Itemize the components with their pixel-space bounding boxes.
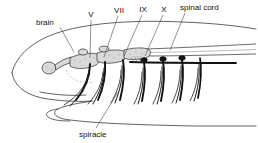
label-nerve-ix: IX xyxy=(139,5,147,14)
label-nerve-x: X xyxy=(161,5,167,14)
dorsal-lobe-anterior xyxy=(79,49,88,55)
posterior-medulla xyxy=(124,48,150,60)
cranial-nerve-diagram: brain V VII IX X spinal cord spiracle xyxy=(0,0,258,143)
label-nerve-vii: VII xyxy=(114,6,124,15)
olfactory-bulb xyxy=(42,62,56,74)
label-nerve-v: V xyxy=(88,10,94,19)
label-brain: brain xyxy=(36,18,54,27)
label-spiracle: spiracle xyxy=(79,130,107,139)
label-spinal-cord: spinal cord xyxy=(180,3,219,12)
lateral-line-nerve xyxy=(130,62,236,63)
